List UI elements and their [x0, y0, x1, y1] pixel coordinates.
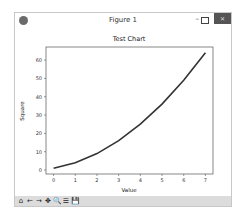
save-button[interactable]: 💾 [71, 197, 79, 205]
figure-window: Figure 1 – ✕ Test Chart 0102030405060 01… [14, 12, 232, 207]
x-tick-label: 7 [204, 177, 207, 183]
y-tick-label: 0 [39, 167, 42, 173]
y-tick-label: 60 [36, 57, 42, 63]
plot-area [46, 47, 213, 174]
x-tick-label: 5 [160, 177, 163, 183]
x-tick-label: 3 [117, 177, 120, 183]
y-tick-label: 50 [36, 75, 42, 81]
pan-icon: ✥ [45, 197, 51, 205]
back-button[interactable]: ← [26, 197, 34, 205]
forward-button[interactable]: → [35, 197, 43, 205]
minimize-button[interactable]: – [196, 15, 200, 23]
chart-svg: Test Chart 0102030405060 01234567 Value … [15, 29, 231, 197]
save-icon: 💾 [71, 197, 80, 205]
pan-button[interactable]: ✥ [44, 197, 52, 205]
x-tick-label: 1 [74, 177, 77, 183]
back-icon: ← [27, 197, 33, 205]
maximize-button[interactable] [201, 17, 209, 24]
x-tick-label: 2 [95, 177, 98, 183]
home-icon: ⌂ [19, 197, 23, 205]
y-tick-label: 40 [36, 94, 42, 100]
navigation-toolbar: ⌂←→✥🔍☰💾 [15, 196, 231, 206]
forward-icon: → [36, 197, 42, 205]
x-tick-label: 6 [182, 177, 185, 183]
figure-canvas: Test Chart 0102030405060 01234567 Value … [15, 29, 231, 197]
x-axis-label: Value [121, 187, 137, 193]
y-axis-label: Square [19, 101, 26, 121]
y-tick-label: 30 [36, 112, 42, 118]
x-tick-label: 0 [52, 177, 55, 183]
close-button[interactable]: ✕ [214, 13, 231, 24]
x-axis-ticks: 01234567 [52, 174, 207, 183]
y-tick-label: 20 [36, 130, 42, 136]
y-tick-label: 10 [36, 149, 42, 155]
home-button[interactable]: ⌂ [17, 197, 25, 205]
chart-title: Test Chart [112, 35, 146, 43]
subplots-icon: ☰ [63, 197, 69, 205]
zoom-button[interactable]: 🔍 [53, 197, 61, 205]
zoom-icon: 🔍 [53, 197, 62, 205]
title-bar[interactable]: Figure 1 – ✕ [15, 13, 231, 29]
subplots-button[interactable]: ☰ [62, 197, 70, 205]
y-axis-ticks: 0102030405060 [36, 57, 46, 173]
x-tick-label: 4 [139, 177, 142, 183]
